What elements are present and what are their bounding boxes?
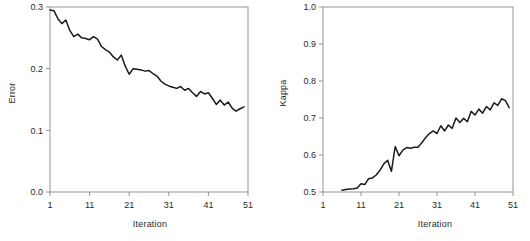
x-tick-label: 1 bbox=[320, 200, 325, 210]
data-line-kappa bbox=[342, 99, 509, 190]
x-tick-label: 31 bbox=[164, 200, 174, 210]
y-tick-label: 0.6 bbox=[303, 150, 316, 160]
x-tick-label: 11 bbox=[356, 200, 365, 210]
y-axis-title-error: Error bbox=[7, 63, 17, 123]
y-tick-label: 0.8 bbox=[303, 76, 316, 86]
y-tick-label: 0.7 bbox=[303, 113, 316, 123]
y-tick-label: 0.3 bbox=[30, 2, 43, 12]
x-axis-title-kappa: Iteration bbox=[380, 219, 490, 229]
data-line-error bbox=[50, 10, 244, 111]
panel-error: 0.00.10.20.311121314151 Error Iteration bbox=[0, 0, 265, 241]
x-tick-label: 21 bbox=[124, 200, 134, 210]
y-tick-label: 0.5 bbox=[303, 187, 316, 197]
y-tick-label: 1.0 bbox=[303, 2, 316, 12]
figure-two-panel-line-charts: 0.00.10.20.311121314151 Error Iteration … bbox=[0, 0, 530, 241]
y-tick-label: 0.1 bbox=[30, 126, 43, 136]
x-tick-label: 41 bbox=[203, 200, 213, 210]
x-tick-label: 51 bbox=[243, 200, 253, 210]
y-tick-label: 0.0 bbox=[30, 187, 43, 197]
y-tick-label: 0.2 bbox=[30, 64, 43, 74]
error-plot-svg: 0.00.10.20.311121314151 bbox=[0, 0, 265, 241]
x-tick-label: 21 bbox=[394, 200, 404, 210]
x-tick-label: 41 bbox=[470, 200, 480, 210]
panel-kappa: 0.50.60.70.80.91.011121314151 Kappa Iter… bbox=[265, 0, 530, 241]
plot-frame bbox=[323, 7, 513, 192]
plot-frame bbox=[50, 7, 248, 192]
y-axis-title-kappa: Kappa bbox=[278, 63, 288, 123]
x-tick-label: 51 bbox=[508, 200, 518, 210]
kappa-plot-svg: 0.50.60.70.80.91.011121314151 bbox=[265, 0, 530, 241]
x-tick-label: 1 bbox=[47, 200, 52, 210]
x-tick-label: 31 bbox=[432, 200, 442, 210]
x-axis-title-error: Iteration bbox=[95, 219, 205, 229]
y-tick-label: 0.9 bbox=[303, 39, 316, 49]
x-tick-label: 11 bbox=[85, 200, 94, 210]
